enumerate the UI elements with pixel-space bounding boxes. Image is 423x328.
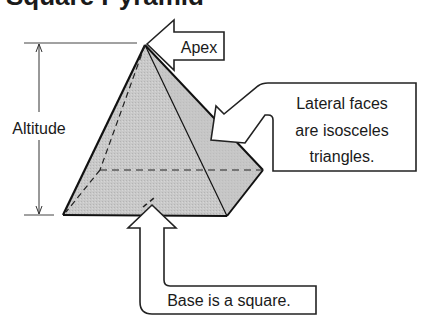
apex-label: Apex <box>181 39 217 56</box>
base-label: Base is a square. <box>167 292 291 309</box>
altitude-label: Altitude <box>12 120 65 137</box>
lateral-label-line3: triangles. <box>310 148 375 165</box>
square-pyramid-diagram: Apex Lateral faces are isosceles triangl… <box>0 0 423 328</box>
lateral-label-line1: Lateral faces <box>296 95 388 112</box>
lateral-label-line2: are isosceles <box>295 122 388 139</box>
base-callout: Base is a square. <box>128 205 316 314</box>
